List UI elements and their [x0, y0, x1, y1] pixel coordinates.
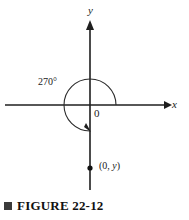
point-label-open: (0, — [99, 160, 112, 171]
point-label: (0, y) — [99, 161, 120, 171]
figure-container: y x 0 270° (0, y) FIGURE 22-12 — [0, 0, 189, 220]
x-axis-label: x — [172, 99, 177, 110]
angle-label: 270° — [38, 77, 57, 87]
y-axis-label: y — [88, 5, 93, 16]
figure-caption-text: FIGURE 22-12 — [17, 198, 104, 214]
y-axis-arrowhead — [86, 20, 94, 30]
origin-label: 0 — [94, 108, 100, 119]
figure-caption: FIGURE 22-12 — [4, 198, 104, 214]
plotted-point-marker — [87, 165, 92, 170]
square-bullet-icon — [4, 202, 12, 210]
x-axis-arrowhead — [164, 101, 172, 109]
point-label-close: ) — [117, 160, 120, 171]
coordinate-diagram — [0, 0, 189, 196]
